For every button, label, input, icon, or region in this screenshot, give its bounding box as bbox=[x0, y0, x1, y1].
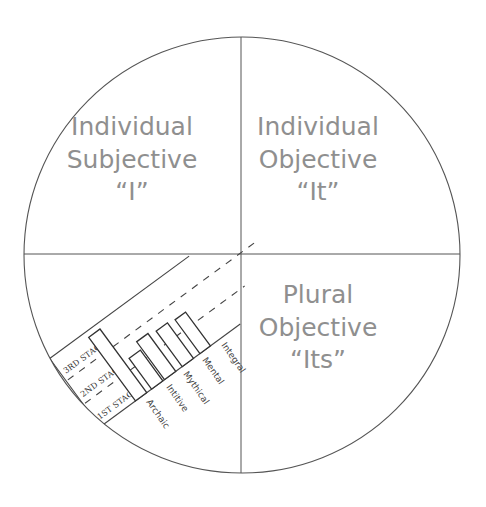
quadrant-ul-line-3: “I” bbox=[115, 177, 148, 206]
quadrant-upper-left: Individual Subjective “I” bbox=[67, 112, 198, 206]
quadrant-ul-line-2: Subjective bbox=[67, 145, 198, 174]
quadrant-lr-line-3: “Its” bbox=[290, 345, 346, 374]
category-label-archaic: Archaic bbox=[144, 397, 171, 430]
category-label-mental: Mental bbox=[200, 355, 226, 386]
quadrant-ur-line-2: Objective bbox=[259, 145, 378, 174]
quadrant-upper-right: Individual Objective “It” bbox=[257, 112, 379, 206]
quadrant-ur-line-1: Individual bbox=[257, 112, 379, 141]
category-label-intitive: Intitive bbox=[164, 382, 190, 414]
quadrant-ur-line-3: “It” bbox=[296, 177, 339, 206]
quadrant-ul-line-1: Individual bbox=[71, 112, 193, 141]
quadrant-lr-line-2: Objective bbox=[259, 313, 378, 342]
diagram-canvas: Individual Subjective “I” Individual Obj… bbox=[0, 0, 486, 507]
quadrant-lower-right: Plural Objective “Its” bbox=[259, 280, 378, 374]
stage-chart: 1ST STAGE 2ND STAGE 3RD STAGE Archaic In… bbox=[50, 219, 290, 430]
quadrant-lr-line-1: Plural bbox=[283, 280, 353, 309]
category-label-integral: Integral bbox=[219, 340, 247, 374]
outer-circle bbox=[24, 37, 460, 473]
